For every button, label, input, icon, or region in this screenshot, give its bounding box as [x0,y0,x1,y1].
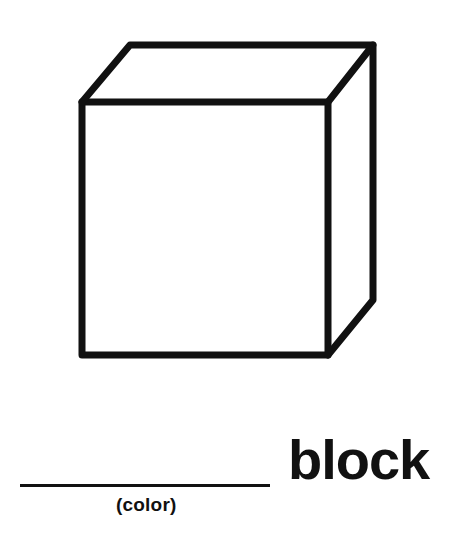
cube-icon [0,0,462,400]
cube-front-face [82,102,328,355]
fill-in-blank-line[interactable] [20,484,270,487]
object-word: block [288,432,429,488]
cube-top-face [82,45,373,102]
blank-caption: (color) [116,494,177,516]
